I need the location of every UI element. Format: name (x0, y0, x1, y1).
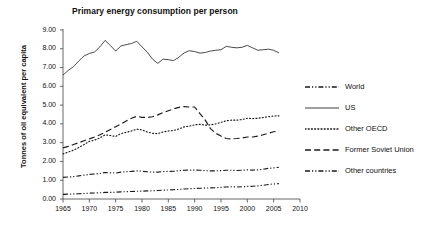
y-axis-tick-label: 3.00 (28, 138, 56, 145)
series-line-world (63, 167, 279, 177)
legend-item[interactable]: Other OECD (305, 118, 414, 139)
legend-item[interactable]: World (305, 76, 414, 97)
legend-swatch-us (305, 103, 339, 113)
chart-legend: WorldUSOther OECDFormer Soviet UnionOthe… (305, 76, 414, 181)
legend-swatch-former-soviet-union (305, 145, 339, 155)
y-axis-tick-label: 5.00 (28, 101, 56, 108)
legend-item[interactable]: Former Soviet Union (305, 139, 414, 160)
legend-item[interactable]: Other countries (305, 160, 414, 181)
series-line-other-countries (63, 184, 279, 195)
legend-item[interactable]: US (305, 97, 414, 118)
x-axis-tick-label: 2010 (285, 205, 315, 212)
legend-label: US (339, 103, 355, 112)
legend-label: World (339, 82, 364, 91)
legend-label: Other countries (339, 166, 396, 175)
legend-label: Other OECD (339, 124, 388, 133)
legend-swatch-other-countries (305, 166, 339, 176)
legend-label: Former Soviet Union (339, 145, 414, 154)
series-line-former-soviet-union (63, 107, 279, 148)
legend-swatch-other-oecd (305, 124, 339, 134)
y-axis-tick-label: 6.00 (28, 82, 56, 89)
y-axis-tick-label: 2.00 (28, 157, 56, 164)
series-line-other-oecd (63, 116, 279, 154)
y-axis-tick-label: 9.00 (28, 26, 56, 33)
y-axis-tick-label: 8.00 (28, 44, 56, 51)
chart-container: Primary energy consumption per person To… (0, 0, 422, 227)
legend-swatch-world (305, 82, 339, 92)
y-axis-tick-label: 7.00 (28, 63, 56, 70)
y-axis-tick-label: 4.00 (28, 119, 56, 126)
y-axis-tick-label: 0.00 (28, 195, 56, 202)
y-axis-tick-label: 1.00 (28, 176, 56, 183)
series-line-us (63, 40, 279, 75)
